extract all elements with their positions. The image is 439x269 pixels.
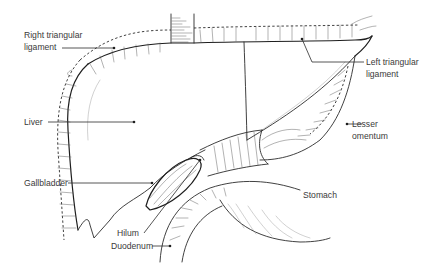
- label-stomach: Stomach: [303, 190, 337, 200]
- peritoneal-fringe-top: [200, 16, 376, 42]
- label-gallbladder: Gallbladder: [24, 178, 68, 188]
- label-left-triangular-ligament-line1: Left triangular: [366, 57, 419, 67]
- lesser-omentum-shape: [260, 56, 355, 160]
- label-left-triangular-ligament-line2: ligament: [366, 69, 399, 79]
- liver-outline: [68, 36, 372, 238]
- label-lesser-omentum-line1: Lesser: [352, 119, 378, 129]
- label-hilum: Hilum: [117, 228, 139, 238]
- liver-anatomy-diagram: Right triangular ligament Liver Left tri…: [0, 0, 439, 269]
- label-duodenum: Duodenum: [111, 241, 153, 251]
- hepatoduodenal-tube: [200, 130, 268, 176]
- label-right-triangular-ligament-line1: Right triangular: [24, 30, 82, 40]
- label-right-triangular-ligament-line2: ligament: [24, 42, 57, 52]
- ligament-dashes: [58, 25, 358, 240]
- label-lesser-omentum-line2: omentum: [352, 131, 388, 141]
- stomach-shape: [220, 200, 330, 242]
- label-liver: Liver: [24, 117, 43, 127]
- vena-cava-stub: [171, 14, 194, 43]
